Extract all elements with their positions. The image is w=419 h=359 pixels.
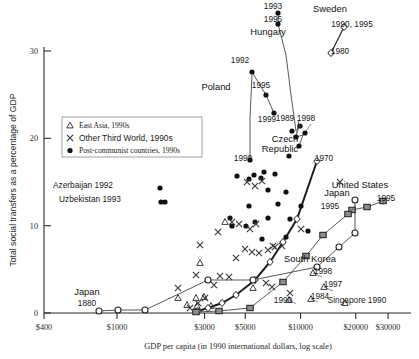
marker-post-communist-countries-1990s: [302, 130, 307, 135]
annotation-label: 1990, 1995: [331, 19, 373, 29]
marker-east-asia-1990s: [184, 302, 190, 308]
annotation-label: 1993: [264, 1, 283, 11]
marker-post-communist-countries-1990s: [272, 171, 277, 176]
x-tick-label: $400: [36, 323, 52, 332]
marker-post-communist-countries-1990s: [275, 201, 280, 206]
marker-united-states-historical: [364, 204, 370, 209]
marker-japan-historical: [96, 308, 102, 314]
marker-other-third-world-1990s: [252, 183, 258, 189]
annotation-label: 1990: [234, 153, 253, 163]
marker-other-third-world-1990s: [265, 247, 271, 253]
x-tick-label: $5000: [235, 323, 255, 332]
marker-post-communist-countries-1990s: [265, 187, 270, 192]
marker-other-third-world-1990s: [193, 272, 199, 278]
x-tick-label: $1000: [107, 323, 127, 332]
marker-other-third-world-1990s: [263, 280, 269, 286]
marker-japan-historical: [250, 277, 256, 283]
marker-post-communist-countries-1990s: [263, 92, 268, 97]
y-axis-title: Total social transfers as a percentage o…: [8, 93, 18, 266]
marker-other-third-world-1990s: [215, 229, 221, 235]
marker-east-asia-1990s: [222, 219, 228, 225]
marker-post-communist-countries-1990s: [243, 223, 248, 228]
marker-post-communist-countries-1990s: [246, 176, 251, 181]
legend-label: Other Third World, 1990s: [79, 133, 173, 143]
marker-post-communist-countries-1990s: [234, 173, 239, 178]
marker-united-states-historical: [193, 309, 199, 314]
x-tick-label: $3000: [194, 323, 214, 332]
x-tick-label: $30000: [376, 323, 401, 332]
marker-post-communist-countries-1990s: [259, 236, 264, 241]
annotation-label: Sweden: [313, 3, 347, 14]
annotation-label: 1880: [78, 298, 97, 308]
marker-east-asia-1990s: [193, 295, 199, 301]
annotation-label: Republic: [262, 143, 299, 154]
marker-other-third-world-1990s: [226, 274, 232, 280]
x-tick-label: $10000: [288, 323, 313, 332]
annotation-label: South Korea: [284, 253, 337, 264]
annotation-label: 1980: [331, 46, 350, 56]
marker-other-third-world-1990s: [269, 284, 275, 290]
y-tick-label: 30: [30, 47, 38, 56]
annotation-label: Japan: [324, 187, 350, 198]
marker-united-states-historical: [247, 305, 253, 310]
marker-japan-historical: [115, 307, 121, 313]
annotation-label: 1999: [258, 114, 277, 124]
marker-post-communist-countries-1990s: [283, 189, 288, 194]
legend-label: East Asia, 1990s: [79, 121, 129, 130]
marker-post-communist-countries-1990s: [261, 169, 266, 174]
marker-other-third-world-1990s: [233, 255, 239, 261]
marker-japan-historical: [142, 307, 148, 313]
annotation-label: 1970: [315, 153, 334, 163]
marker-post-communist-countries-1990s: [251, 172, 256, 177]
marker-other-third-world-1990s: [247, 226, 253, 232]
marker-japan-historical: [352, 230, 358, 236]
marker-other-third-world-1990s: [272, 244, 278, 250]
annotation-label: Azerbaijan 1992: [53, 180, 113, 190]
marker-other-third-world-1990s: [249, 249, 255, 255]
marker-post-communist-countries-1990s: [287, 216, 292, 221]
marker-post-communist-countries-1990s: [283, 234, 288, 239]
marker-united-kingdom-historical: [205, 304, 211, 311]
marker-other-third-world-1990s: [197, 242, 203, 248]
annotation-label: 1998: [314, 266, 333, 276]
y-tick-label: 20: [30, 134, 38, 143]
legend-marker-filled-circle: [67, 148, 72, 153]
marker-post-communist-countries-1990s: [305, 228, 310, 233]
annotation-label: Hungary: [250, 26, 286, 37]
y-tick-label: 10: [30, 222, 38, 231]
marker-other-third-world-1990s: [187, 305, 193, 311]
marker-united-kingdom-historical: [219, 299, 225, 306]
x-axis-title: GDP per capita (in 1990 international do…: [144, 342, 332, 351]
marker-post-communist-countries-1990s: [246, 203, 251, 208]
poland-trajectory: [252, 72, 274, 113]
chart-legend: East Asia, 1990sOther Third World, 1990s…: [62, 117, 202, 157]
annotation-label: 1995: [377, 193, 396, 203]
marker-united-states-historical: [320, 232, 326, 237]
marker-other-third-world-1990s: [256, 250, 262, 256]
marker-other-third-world-1990s: [270, 243, 276, 249]
marker-east-asia-1990s: [197, 260, 203, 266]
marker-japan-historical: [352, 197, 358, 203]
y-tick-label: 0: [34, 309, 38, 318]
annotation-label: 1995: [252, 80, 271, 90]
marker-post-communist-countries-1990s: [298, 203, 303, 208]
marker-post-communist-countries-1990s: [249, 69, 254, 74]
marker-post-communist-countries-1990s: [162, 199, 167, 204]
annotation-label: 1997: [324, 279, 343, 289]
marker-other-third-world-1990s: [236, 221, 242, 227]
x-tick-label: $20000: [343, 323, 368, 332]
leader-line: [306, 124, 311, 131]
marker-other-third-world-1990s: [242, 246, 248, 252]
scatter-plot-canvas: 0102030$400$1000$3000$5000$10000$20000$3…: [0, 0, 419, 359]
annotation-label: 1992: [231, 55, 250, 65]
marker-japan-historical: [336, 244, 342, 250]
marker-post-communist-countries-1990s: [265, 215, 270, 220]
marker-post-communist-countries-1990s: [157, 185, 162, 190]
annotation-label: Japan: [74, 286, 100, 297]
marker-united-states-historical: [216, 308, 222, 313]
annotation-label: Singapore 1990: [328, 295, 387, 305]
marker-other-third-world-1990s: [211, 282, 217, 288]
marker-east-asia-1990s: [250, 285, 256, 291]
marker-united-states-historical: [280, 279, 286, 284]
marker-post-communist-countries-1990s: [286, 153, 291, 158]
